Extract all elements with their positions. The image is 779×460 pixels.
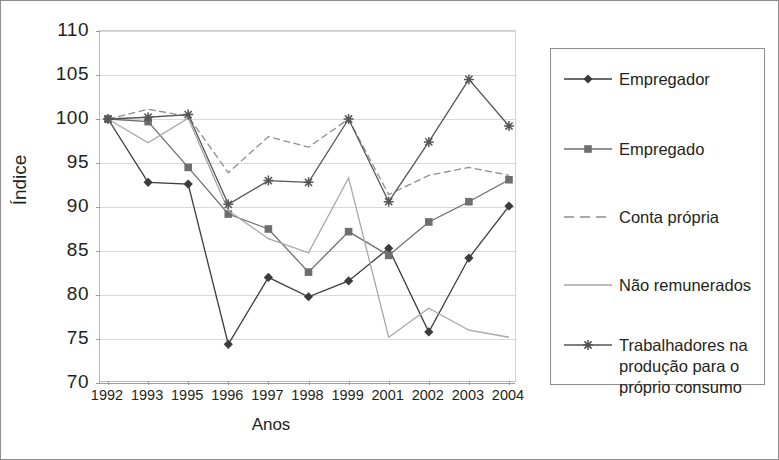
x-tick-label: 1996 xyxy=(211,387,243,403)
legend-item-4[interactable]: Não remunerados xyxy=(562,275,751,296)
series-line xyxy=(108,119,509,272)
x-tick-label: 1998 xyxy=(291,387,323,403)
x-tick-label: 1992 xyxy=(91,387,123,403)
y-tick-label: 80 xyxy=(1,283,89,305)
data-point-marker xyxy=(583,74,592,83)
legend-label: Trabalhadores na produção para o próprio… xyxy=(619,335,748,398)
y-tick-label: 100 xyxy=(1,107,89,129)
legend-key-icon xyxy=(562,70,614,88)
series-line xyxy=(108,119,509,344)
data-point-marker xyxy=(504,121,514,131)
data-point-marker xyxy=(183,110,193,120)
y-tick-mark xyxy=(96,383,100,384)
legend-item-2[interactable]: Empregado xyxy=(562,139,704,160)
data-point-marker xyxy=(143,112,153,122)
data-point-marker xyxy=(344,114,354,124)
series-1 xyxy=(103,114,513,348)
data-point-marker xyxy=(583,340,593,350)
series-4 xyxy=(108,118,509,337)
x-tick-label: 2004 xyxy=(492,387,524,403)
data-point-marker xyxy=(345,228,353,236)
y-tick-label: 90 xyxy=(1,195,89,217)
data-point-marker xyxy=(103,114,113,124)
data-point-marker xyxy=(584,145,592,153)
series-5 xyxy=(103,74,514,209)
x-tick-label: 1993 xyxy=(131,387,163,403)
x-tick-label: 2001 xyxy=(372,387,404,403)
x-tick-label: 2003 xyxy=(452,387,484,403)
legend-key-icon xyxy=(562,336,614,354)
data-point-marker xyxy=(305,268,313,276)
legend-key-icon xyxy=(562,140,614,158)
data-point-marker xyxy=(184,164,192,172)
data-point-marker xyxy=(224,340,233,349)
legend-item-5[interactable]: Trabalhadores na produção para o próprio… xyxy=(562,335,748,398)
y-tick-label: 85 xyxy=(1,239,89,261)
data-point-marker xyxy=(144,178,153,187)
y-tick-label: 95 xyxy=(1,151,89,173)
data-point-marker xyxy=(385,252,393,260)
chart-figure: Índice Anos 707580859095100105110 199219… xyxy=(0,0,779,460)
data-point-marker xyxy=(225,210,233,218)
data-point-marker xyxy=(265,225,273,233)
data-point-marker xyxy=(304,292,313,301)
y-tick-label: 75 xyxy=(1,327,89,349)
legend-item-1[interactable]: Empregador xyxy=(562,69,710,90)
legend-label: Conta própria xyxy=(619,207,719,228)
data-point-marker xyxy=(464,74,474,84)
x-axis-line xyxy=(100,383,515,384)
legend-label: Empregado xyxy=(619,139,704,160)
data-point-marker xyxy=(264,273,273,282)
y-tick-label: 110 xyxy=(1,19,89,41)
series-line xyxy=(108,118,509,337)
data-point-marker xyxy=(425,218,433,226)
y-tick-label: 105 xyxy=(1,63,89,85)
legend-item-3[interactable]: Conta própria xyxy=(562,207,719,228)
data-point-marker xyxy=(505,176,513,184)
data-point-marker xyxy=(424,137,434,147)
legend-key-icon xyxy=(562,276,614,294)
plot-container: Índice Anos 707580859095100105110 199219… xyxy=(1,1,541,460)
x-tick-label: 1995 xyxy=(171,387,203,403)
legend-key-icon xyxy=(562,208,614,226)
x-axis-title: Anos xyxy=(1,415,541,435)
series-layer xyxy=(100,31,517,383)
legend-label: Não remunerados xyxy=(619,275,751,296)
x-tick-label: 1997 xyxy=(251,387,283,403)
data-point-marker xyxy=(384,197,394,207)
data-point-marker xyxy=(465,198,473,206)
data-point-marker xyxy=(223,199,233,209)
legend-label: Empregador xyxy=(619,69,710,90)
data-point-marker xyxy=(263,176,273,186)
x-tick-label: 1999 xyxy=(331,387,363,403)
data-point-marker xyxy=(304,177,314,187)
y-tick-label: 70 xyxy=(1,371,89,393)
data-point-marker xyxy=(184,180,193,189)
x-tick-label: 2002 xyxy=(412,387,444,403)
chart-legend: EmpregadorEmpregadoConta própriaNão remu… xyxy=(550,48,765,385)
plot-area xyxy=(99,30,516,382)
data-point-marker xyxy=(424,327,433,336)
